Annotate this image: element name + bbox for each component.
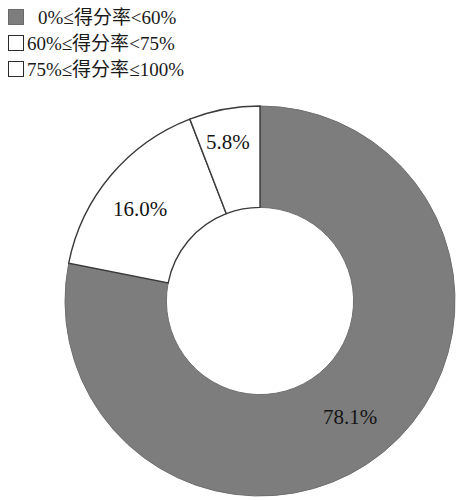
chart-legend: 0%≤得分率<60% 60%≤得分率<75% 75%≤得分率≤100%: [8, 4, 308, 82]
legend-swatch-filled-square-icon: [8, 9, 24, 25]
slice-value-label-16-0: 16.0%: [113, 199, 167, 220]
donut-chart: 5.8% 16.0% 78.1%: [0, 96, 465, 500]
legend-swatch-hollow-square-icon: [8, 61, 24, 77]
slice-value-label-78-1: 78.1%: [323, 407, 377, 428]
legend-item-0: 0%≤得分率<60%: [8, 4, 308, 30]
legend-item-1: 60%≤得分率<75%: [8, 30, 308, 56]
donut-chart-figure: 0%≤得分率<60% 60%≤得分率<75% 75%≤得分率≤100% 5.: [0, 0, 465, 500]
legend-label-2: 75%≤得分率≤100%: [27, 60, 184, 79]
donut-chart-svg: [0, 96, 465, 500]
donut-slices: [65, 106, 455, 496]
legend-item-2: 75%≤得分率≤100%: [8, 56, 308, 82]
legend-swatch-hollow-square-icon: [8, 35, 24, 51]
legend-label-0: 0%≤得分率<60%: [38, 8, 176, 27]
legend-label-1: 60%≤得分率<75%: [27, 34, 175, 53]
slice-value-label-5-8: 5.8%: [206, 132, 250, 153]
